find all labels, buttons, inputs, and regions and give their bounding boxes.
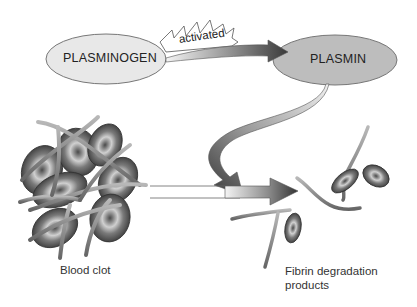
blood-clot-illustration — [15, 117, 146, 258]
plasmin-label: PLASMIN — [310, 52, 366, 66]
fibrin-products-caption-line2: products — [285, 279, 329, 292]
blood-clot-caption: Blood clot — [60, 264, 111, 277]
diagram-canvas — [0, 0, 417, 307]
fibrin-products-caption-line1: Fibrin degradation — [285, 265, 378, 278]
plasmin-action-arrow — [209, 84, 329, 195]
plasminogen-label: PLASMINOGEN — [63, 51, 157, 65]
